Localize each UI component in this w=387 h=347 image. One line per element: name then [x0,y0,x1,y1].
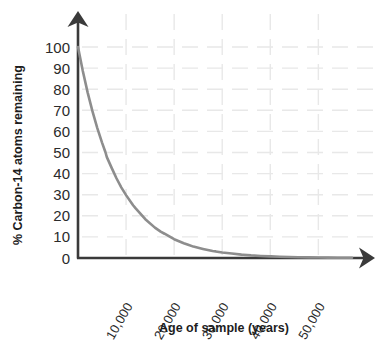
y-tick-label: 0 [62,250,70,267]
y-tick-label: 50 [53,144,70,161]
y-tick-label: 90 [53,60,70,77]
y-tick-label: 10 [53,228,70,245]
y-tick-label: 40 [53,165,70,182]
y-tick-label: 30 [53,186,70,203]
y-tick-label: 60 [53,123,70,140]
y-tick-label: 80 [53,81,70,98]
y-tick-label: 70 [53,102,70,119]
y-tick-label: 100 [45,39,70,56]
y-tick-label: 20 [53,207,70,224]
carbon-14-decay-chart: 0102030405060708090100 10,00020,00030,00… [0,0,387,347]
chart-canvas: 0102030405060708090100 10,00020,00030,00… [0,0,387,347]
y-axis-title: % Carbon-14 atoms remaining [11,65,25,245]
x-axis-title: Age of sample (years) [159,321,289,335]
